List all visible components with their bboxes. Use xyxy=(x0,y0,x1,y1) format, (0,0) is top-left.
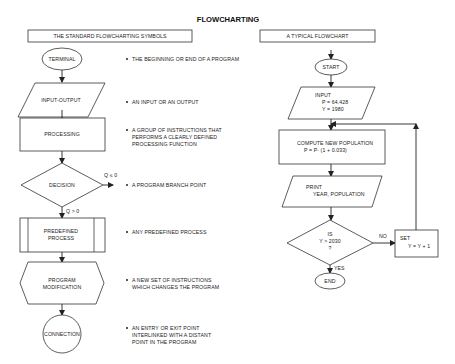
end-terminal: END xyxy=(315,273,345,289)
svg-text:PROCESSING FUNCTION: PROCESSING FUNCTION xyxy=(132,141,197,147)
input-output-description: AN INPUT OR AN OUTPUT xyxy=(126,99,199,105)
svg-text:POINT IN THE PROGRAM: POINT IN THE PROGRAM xyxy=(132,339,196,345)
print-block: PRINT YEAR, POPULATION xyxy=(282,176,382,207)
svg-text:MODIFICATION: MODIFICATION xyxy=(43,284,82,290)
right-panel-header-label: A TYPICAL FLOWCHART xyxy=(286,33,349,39)
branch-right-label: Q ≤ 0 xyxy=(104,172,117,178)
svg-text:A NEW SET OF INSTRUCTIONS: A NEW SET OF INSTRUCTIONS xyxy=(132,277,212,283)
svg-text:INPUT: INPUT xyxy=(315,92,332,98)
start-terminal: START xyxy=(315,59,347,75)
svg-text:?: ? xyxy=(329,245,332,251)
input-output-symbol: INPUT-OUTPUT xyxy=(18,83,105,117)
left-panel-header-label: THE STANDARD FLOWCHARTING SYMBOLS xyxy=(53,33,167,39)
predefined-process-symbol: PREDEFINED PROCESS xyxy=(20,218,105,252)
svg-text:YEAR, POPULATION: YEAR, POPULATION xyxy=(313,191,365,197)
connection-label: CONNECTION xyxy=(44,331,80,337)
svg-text:PREDEFINED: PREDEFINED xyxy=(44,228,79,234)
processing-label: PROCESSING xyxy=(44,131,80,137)
no-label: NO xyxy=(379,233,387,239)
svg-text:P = 64.428: P = 64.428 xyxy=(322,99,348,105)
svg-text:PROGRAM: PROGRAM xyxy=(48,277,76,283)
processing-symbol: PROCESSING xyxy=(20,118,105,151)
program-modification-symbol: PROGRAM MODIFICATION xyxy=(20,262,104,304)
svg-text:A PROGRAM BRANCH POINT: A PROGRAM BRANCH POINT xyxy=(132,182,207,188)
set-block: SET Y = Y + 1 xyxy=(395,230,438,257)
hexagon-icon xyxy=(20,262,104,304)
yes-label: YES xyxy=(334,265,345,271)
connection-description: AN ENTRY OR EXIT POINT INTERLINKED WITH … xyxy=(126,325,212,345)
svg-text:SET: SET xyxy=(400,235,411,241)
connection-symbol: CONNECTION xyxy=(43,315,81,353)
svg-text:Y = 1980: Y = 1980 xyxy=(322,106,344,112)
svg-text:WHICH CHANGES THE PROGRAM: WHICH CHANGES THE PROGRAM xyxy=(132,284,219,290)
program-modification-description: A NEW SET OF INSTRUCTIONS WHICH CHANGES … xyxy=(126,277,219,290)
flowcharting-diagram: FLOWCHARTING THE STANDARD FLOWCHARTING S… xyxy=(0,0,455,364)
branch-down-label: Q > 0 xyxy=(66,208,79,214)
svg-text:PROCESS: PROCESS xyxy=(48,235,75,241)
start-label: START xyxy=(322,64,340,70)
processing-description: A GROUP OF INSTRUCTIONS THAT PERFORMS A … xyxy=(126,127,223,147)
predefined-process-description: ANY PREDEFINED PROCESS xyxy=(126,229,207,235)
svg-text:P = P· (1 + 0.033): P = P· (1 + 0.033) xyxy=(304,147,347,153)
compute-block: COMPUTE NEW POPULATION P = P· (1 + 0.033… xyxy=(279,130,385,164)
terminal-description: THE BEGINNING OR END OF A PROGRAM xyxy=(126,56,239,62)
svg-text:IS: IS xyxy=(327,231,333,237)
svg-text:Y = Y + 1: Y = Y + 1 xyxy=(408,243,430,249)
page-title: FLOWCHARTING xyxy=(197,15,260,24)
right-panel-header: A TYPICAL FLOWCHART xyxy=(260,30,375,42)
terminal-symbol: TERMINAL xyxy=(42,48,82,70)
input-block: INPUT P = 64.428 Y = 1980 xyxy=(288,87,375,119)
svg-text:PERFORMS A CLEARLY DEFINED: PERFORMS A CLEARLY DEFINED xyxy=(132,134,217,140)
terminal-label: TERMINAL xyxy=(48,56,75,62)
left-panel-header: THE STANDARD FLOWCHARTING SYMBOLS xyxy=(28,30,192,42)
svg-text:AN ENTRY OR EXIT POINT: AN ENTRY OR EXIT POINT xyxy=(132,325,200,331)
end-label: END xyxy=(324,278,335,284)
svg-text:ANY PREDEFINED PROCESS: ANY PREDEFINED PROCESS xyxy=(132,229,207,235)
decision-label: DECISION xyxy=(49,182,75,188)
svg-text:Y > 2030: Y > 2030 xyxy=(319,238,341,244)
decision-symbol: DECISION xyxy=(21,163,103,207)
svg-text:PRINT: PRINT xyxy=(306,184,323,190)
svg-text:THE BEGINNING OR END OF A PROG: THE BEGINNING OR END OF A PROGRAM xyxy=(132,56,239,62)
input-output-label: INPUT-OUTPUT xyxy=(41,97,81,103)
svg-text:INTERLINKED WITH A DISTANT: INTERLINKED WITH A DISTANT xyxy=(132,332,212,338)
svg-text:AN INPUT OR AN OUTPUT: AN INPUT OR AN OUTPUT xyxy=(132,99,199,105)
decision-block: IS Y > 2030 ? xyxy=(287,220,373,265)
decision-description: A PROGRAM BRANCH POINT xyxy=(126,182,207,188)
svg-text:COMPUTE NEW POPULATION: COMPUTE NEW POPULATION xyxy=(297,140,373,146)
svg-text:A GROUP OF INSTRUCTIONS THAT: A GROUP OF INSTRUCTIONS THAT xyxy=(132,127,223,133)
